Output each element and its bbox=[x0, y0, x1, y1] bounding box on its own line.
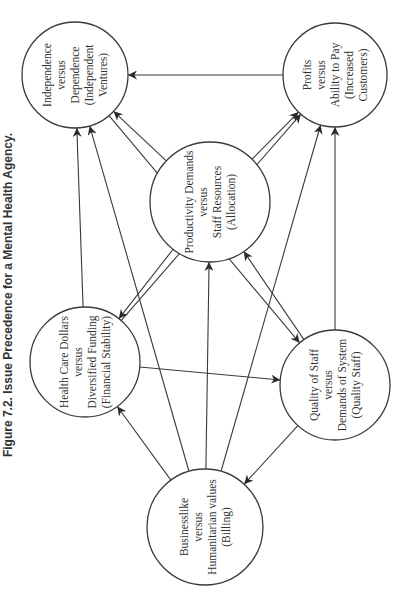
edge-productivity-to-profits bbox=[252, 112, 298, 159]
node-label-line: versus bbox=[315, 60, 327, 90]
node-circle bbox=[30, 307, 140, 417]
node-circle bbox=[280, 330, 390, 440]
node-circle bbox=[147, 469, 263, 585]
edge-productivity-to-independence bbox=[114, 111, 167, 161]
node-label-line: versus bbox=[72, 347, 84, 377]
node-label-line: versus bbox=[197, 187, 209, 217]
node-label-line: Demands of System bbox=[336, 339, 349, 432]
node-label-line: Ability to Pay bbox=[329, 42, 342, 107]
edge-quality-to-productivity bbox=[244, 252, 304, 340]
node-label-line: (Quality Staff) bbox=[350, 351, 363, 418]
node-label-line: Customers) bbox=[357, 48, 370, 101]
node-label-line: Profits bbox=[301, 59, 313, 90]
node-label-line: versus bbox=[192, 512, 204, 542]
node-label: Health Care DollarsversusDiversified Fun… bbox=[58, 315, 113, 408]
node-health_care: Health Care DollarsversusDiversified Fun… bbox=[30, 307, 140, 417]
node-label-line: (Increased bbox=[343, 51, 356, 99]
node-profits: ProfitsversusAbility to Pay(IncreasedCus… bbox=[283, 23, 387, 127]
node-label-line: Quality of Staff bbox=[308, 349, 321, 421]
node-label-line: Productivity Demands bbox=[183, 150, 196, 254]
node-label-line: versus bbox=[55, 60, 67, 90]
edge-billing-to-health_care bbox=[117, 406, 171, 480]
edge-quality-to-billing bbox=[244, 426, 298, 485]
edge-health_care-to-independence bbox=[77, 128, 83, 307]
edge-productivity-to-health_care bbox=[119, 249, 173, 318]
node-independence: IndependenceversusDependence(Independent… bbox=[22, 22, 128, 128]
node-label-line: Dependence bbox=[69, 47, 82, 104]
node-quality: Quality of StaffversusDemands of System(… bbox=[280, 330, 390, 440]
figure-caption: Figure 7.2. Issue Precedence for a Menta… bbox=[1, 133, 15, 457]
node-label-line: (Allocation) bbox=[225, 174, 238, 230]
issue-precedence-diagram: Figure 7.2. Issue Precedence for a Menta… bbox=[0, 0, 398, 591]
node-label-line: (Billing) bbox=[220, 507, 233, 547]
node-label-line: Ventures) bbox=[97, 53, 110, 97]
node-label-line: Staff Resources bbox=[211, 165, 223, 238]
node-label-line: (Independent bbox=[83, 44, 96, 105]
node-label-line: Businesslike bbox=[178, 498, 190, 556]
node-productivity: Productivity DemandsversusStaff Resource… bbox=[150, 142, 270, 262]
node-billing: BusinesslikeversusHumanitarian values(Bi… bbox=[147, 469, 263, 585]
edge-billing-to-productivity bbox=[206, 262, 209, 469]
node-circle bbox=[150, 142, 270, 262]
node-label-line: Independence bbox=[41, 43, 54, 107]
node-label-line: (Financial Stability) bbox=[100, 316, 113, 408]
node-label-line: Diversified Funding bbox=[86, 315, 99, 408]
node-label-line: versus bbox=[322, 370, 334, 400]
node-label: Quality of StaffversusDemands of System(… bbox=[308, 339, 363, 432]
node-label-line: Health Care Dollars bbox=[58, 315, 70, 407]
node-label-line: Humanitarian values bbox=[206, 479, 218, 575]
